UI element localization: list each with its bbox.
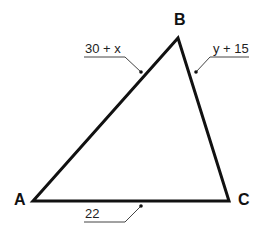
side-label-ac: 22 [85,206,99,221]
side-label-bc: y + 15 [213,41,249,56]
vertex-label-b: B [174,11,186,28]
triangle-diagram: B A C 30 + x y + 15 22 [0,0,262,232]
vertex-label-a: A [14,191,26,208]
side-label-ab: 30 + x [85,41,121,56]
vertex-label-c: C [238,191,250,208]
leader-ab [84,57,143,74]
leader-bc [194,57,249,74]
